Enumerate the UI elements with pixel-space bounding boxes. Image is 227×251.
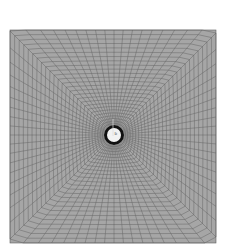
mesh-diagram: b xyxy=(0,0,227,251)
